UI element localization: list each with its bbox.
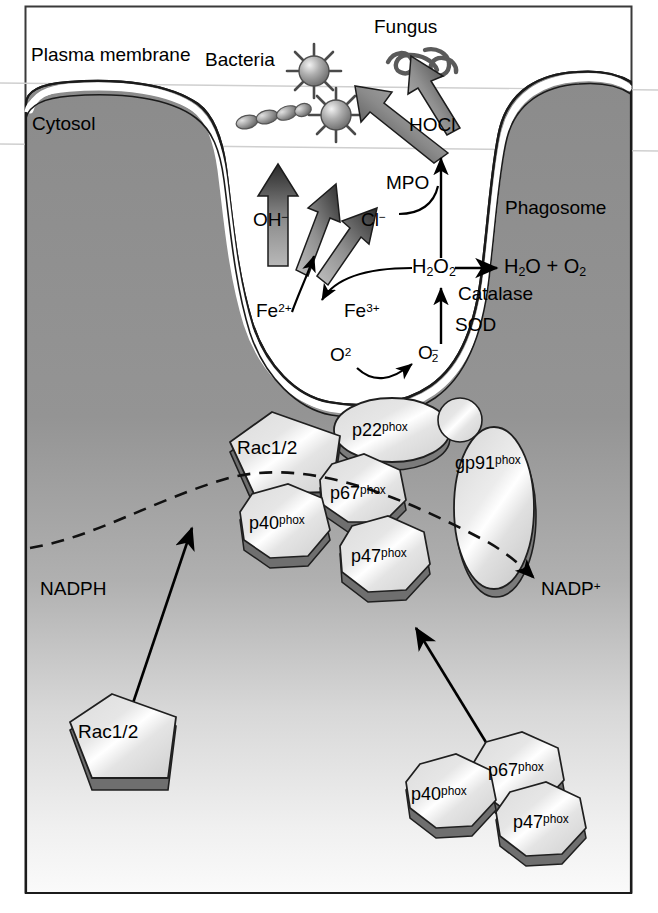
bacteria-coccus-lower — [309, 88, 363, 142]
bacteria-rod-chain — [235, 101, 313, 131]
hydroxyl-label: OH− — [253, 209, 288, 231]
protein-membrane-bump — [438, 398, 482, 442]
cytosol-label: Cytosol — [32, 113, 95, 135]
sod-label: SOD — [455, 314, 496, 336]
catalase-label: Catalase — [458, 283, 533, 305]
hydrogen-peroxide-label: H2O2 — [412, 255, 456, 279]
diagram-vector-layer — [0, 0, 658, 913]
mpo-label: MPO — [386, 172, 429, 194]
label-p22phox-assembled: p22phox — [352, 420, 408, 441]
superoxide-label: O−2 — [418, 342, 438, 364]
label-rac12-assembled: Rac1/2 — [237, 437, 297, 459]
ferric-label: Fe3+ — [344, 300, 380, 322]
label-p67phox-cytosolic: p67phox — [488, 760, 544, 781]
diagram-canvas: Plasma membrane Cytosol Phagosome Bacter… — [0, 0, 658, 913]
bacteria-coccus-upper — [287, 44, 341, 98]
bacteria-label: Bacteria — [205, 49, 275, 71]
label-gp91phox-assembled: gp91phox — [455, 453, 521, 474]
nadp-plus-label: NADP+ — [541, 578, 601, 600]
label-p47phox-assembled: p47phox — [351, 546, 407, 567]
label-p47phox-cytosolic: p47phox — [513, 812, 569, 833]
label-p67phox-assembled: p67phox — [330, 483, 386, 504]
label-p40phox-assembled: p40phox — [249, 513, 305, 534]
label-rac12-cytosolic: Rac1/2 — [78, 721, 138, 743]
water-oxygen-products-label: H2O + O2 — [504, 255, 586, 279]
mpo-text: MPO — [386, 172, 429, 193]
molecular-oxygen-label: O2 — [330, 344, 351, 366]
fungus-label: Fungus — [374, 16, 437, 38]
hocl-text: HOCl — [409, 114, 455, 135]
label-p40phox-cytosolic: p40phox — [411, 784, 467, 805]
hocl-label: HOCl — [409, 114, 455, 136]
phagosome-label: Phagosome — [505, 197, 606, 219]
nadph-label: NADPH — [40, 578, 107, 600]
chloride-label: Cl− — [361, 209, 386, 231]
plasma-membrane-label: Plasma membrane — [31, 44, 190, 66]
arrow-oxygen-reduction — [357, 364, 412, 378]
ros-killing-arrows — [258, 56, 460, 285]
ferrous-label: Fe2+ — [256, 300, 292, 322]
